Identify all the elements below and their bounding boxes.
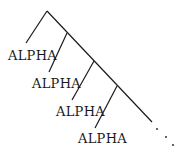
node-label-1: ALPHA <box>7 48 57 63</box>
node-label-4: ALPHA <box>77 131 127 146</box>
tree-diagram: ALPHA ALPHA ALPHA ALPHA <box>0 0 178 155</box>
branch-1 <box>26 11 47 43</box>
node-label-2: ALPHA <box>31 76 81 91</box>
continuation-dots <box>156 128 174 146</box>
node-label-3: ALPHA <box>55 104 105 119</box>
